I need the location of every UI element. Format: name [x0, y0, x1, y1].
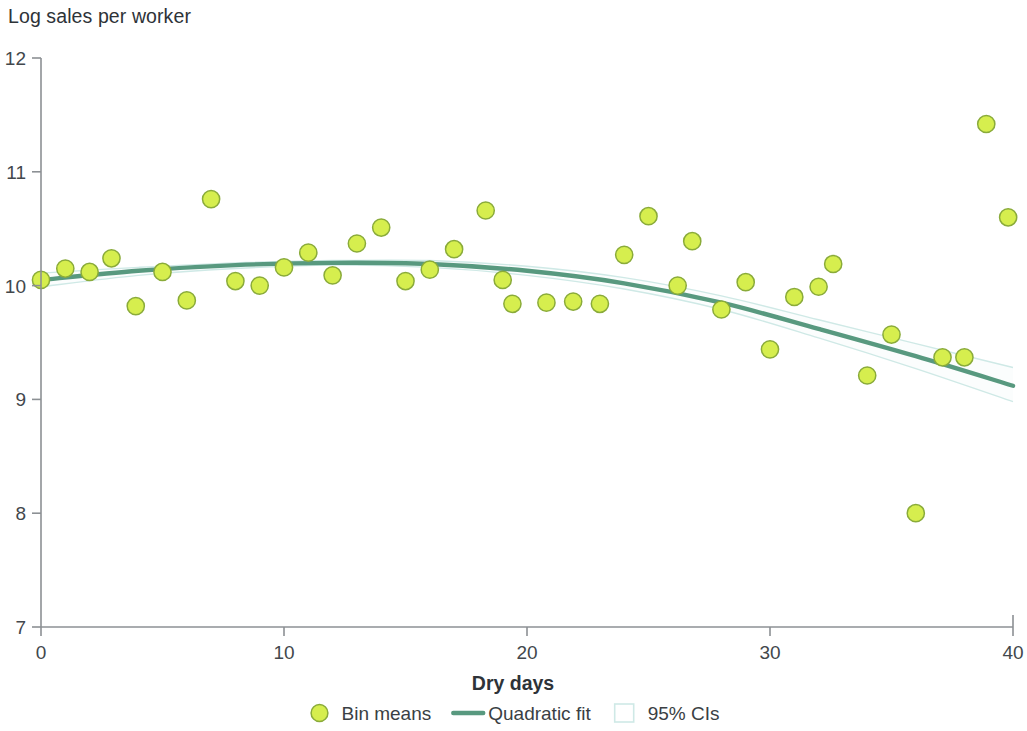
data-point [907, 505, 924, 522]
y-tick-label: 8 [15, 503, 26, 524]
data-point [154, 263, 171, 280]
data-point [275, 259, 292, 276]
data-point [825, 255, 842, 272]
data-point [538, 294, 555, 311]
data-point [669, 277, 686, 294]
data-point [504, 295, 521, 312]
y-tick-label: 10 [5, 276, 26, 297]
data-point [494, 271, 511, 288]
legend-item-label: 95% CIs [648, 703, 720, 724]
data-point [324, 267, 341, 284]
data-point [251, 277, 268, 294]
data-point [103, 250, 120, 267]
data-point [446, 241, 463, 258]
data-point [859, 367, 876, 384]
data-point [227, 272, 244, 289]
data-point [348, 235, 365, 252]
data-point [761, 341, 778, 358]
data-point [640, 208, 657, 225]
data-point [978, 115, 995, 132]
data-point [57, 260, 74, 277]
data-point [127, 297, 144, 314]
data-point [591, 295, 608, 312]
data-point [477, 202, 494, 219]
data-point [373, 219, 390, 236]
x-tick-label: 10 [273, 642, 294, 663]
y-tick-label: 11 [6, 162, 26, 183]
data-point [178, 292, 195, 309]
chart-container: Log sales per worker 789101112 010203040… [0, 0, 1027, 731]
x-tick-label: 0 [36, 642, 47, 663]
legend-circle-marker-icon [311, 705, 328, 722]
data-point [786, 288, 803, 305]
x-axis-ticks: 010203040 [36, 627, 1024, 663]
x-axis-title: Dry days [472, 672, 555, 694]
legend-band-marker-icon [615, 704, 634, 722]
chart-legend: Bin meansQuadratic fit95% CIs [311, 703, 719, 724]
scatter-plot: 789101112 010203040 Dry days Bin meansQu… [0, 0, 1027, 731]
y-tick-label: 7 [15, 617, 26, 638]
data-point [810, 278, 827, 295]
x-tick-label: 40 [1002, 642, 1023, 663]
bin-mean-points [32, 115, 1016, 521]
y-tick-label: 9 [15, 389, 26, 410]
x-tick-label: 30 [759, 642, 780, 663]
data-point [81, 263, 98, 280]
legend-item-label: Quadratic fit [488, 703, 591, 724]
data-point [1000, 209, 1017, 226]
data-point [713, 301, 730, 318]
legend-item-label: Bin means [341, 703, 431, 724]
data-point [300, 244, 317, 261]
data-point [421, 261, 438, 278]
data-point [934, 349, 951, 366]
data-point [397, 272, 414, 289]
data-point [203, 191, 220, 208]
data-point [737, 274, 754, 291]
data-point [956, 349, 973, 366]
x-tick-label: 20 [516, 642, 537, 663]
data-point [883, 326, 900, 343]
data-point [684, 233, 701, 250]
data-point [616, 246, 633, 263]
y-axis-ticks: 789101112 [5, 48, 41, 638]
y-tick-label: 12 [5, 48, 26, 69]
data-point [565, 293, 582, 310]
